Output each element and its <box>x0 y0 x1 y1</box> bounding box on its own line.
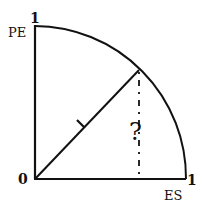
y-axis-name-label: PE <box>8 25 26 40</box>
radius-line <box>35 70 139 179</box>
x-axis-max-label: 1 <box>187 172 197 188</box>
y-axis-max-label: 1 <box>30 10 40 26</box>
radius-label-mark <box>77 120 84 127</box>
quarter-circle-diagram: 1 PE 0 1 ES ? <box>0 0 202 211</box>
origin-label: 0 <box>18 171 28 187</box>
x-axis-name-label: ES <box>164 188 182 203</box>
unknown-value-label: ? <box>129 118 142 146</box>
